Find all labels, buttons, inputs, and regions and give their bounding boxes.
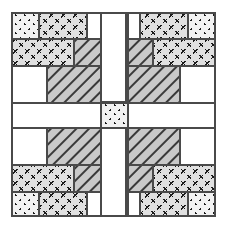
patch-sash-right-white xyxy=(128,103,215,128)
patch-sash-bottom-white xyxy=(101,128,128,216)
patch-br-right-white xyxy=(180,128,215,165)
patch-bl-inner-hatch xyxy=(47,128,101,165)
patch-tl-band-xprint xyxy=(12,39,74,66)
patch-tl-top-xprint xyxy=(39,13,87,39)
patch-bl-band-hatch xyxy=(74,165,101,192)
patch-tr-band-hatch xyxy=(126,39,153,66)
patch-tr-band-xprint xyxy=(153,39,215,66)
quilt-block-figure xyxy=(0,0,227,229)
patch-bl-corner-dotted xyxy=(12,192,39,216)
patch-br-corner-dotted xyxy=(188,192,215,216)
patch-br-inner-hatch xyxy=(126,128,180,165)
patch-bl-bottom-white xyxy=(87,192,101,216)
patch-bl-left-white xyxy=(12,128,47,165)
patch-br-band-hatch xyxy=(126,165,153,192)
patch-tr-inner-hatch xyxy=(126,66,180,103)
patch-tl-top-white xyxy=(87,13,101,39)
patch-sash-left-white xyxy=(12,103,101,128)
patch-tr-right-white xyxy=(180,66,215,103)
quilt-block-svg xyxy=(0,0,227,229)
patch-sash-top-white xyxy=(101,13,128,102)
patch-tl-left-white xyxy=(12,66,47,103)
patch-tl-corner-dotted xyxy=(12,13,39,39)
patch-tr-corner-dotted xyxy=(188,13,215,39)
patch-tl-inner-hatch xyxy=(47,66,101,103)
patch-bl-bottom-xprint xyxy=(39,192,87,216)
patch-br-band-xprint xyxy=(153,165,215,192)
patch-br-bottom-xprint xyxy=(140,192,188,216)
patch-center-dotted xyxy=(101,103,128,128)
patch-bl-band-xprint xyxy=(12,165,74,192)
patch-tl-band-hatch xyxy=(74,39,101,66)
patch-layer xyxy=(12,13,215,216)
patch-tr-top-xprint xyxy=(140,13,188,39)
